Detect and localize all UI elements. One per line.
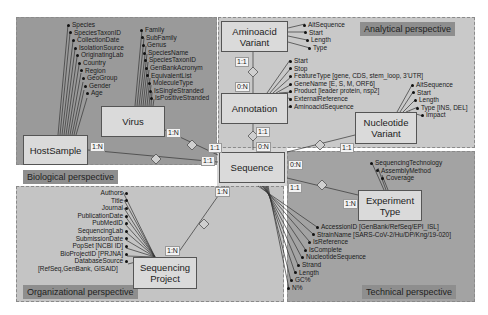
card-exp-seq: 1:1	[288, 183, 302, 193]
attr-accession-id: AccessionID [GenBank/RefSeq/EPI_ISL]	[316, 223, 451, 231]
entity-annotation[interactable]: Annotation	[221, 93, 288, 124]
entity-host-sample[interactable]: HostSample	[23, 135, 88, 165]
attr-collection-date: CollectionDate	[72, 36, 124, 44]
entity-nucleotide-variant[interactable]: Nucleotide Variant	[355, 112, 417, 144]
attr-genus: Genus	[142, 41, 209, 49]
attr-n-percent: N%	[287, 284, 451, 292]
attr-type: Type [INS, DEL]	[416, 104, 468, 112]
attr-sequencing-lab: SequencingLab	[60, 227, 128, 235]
attr-originating-lab: OriginatingLab	[76, 51, 124, 59]
attr-pubmed-id: PubMedID	[60, 219, 128, 227]
attr-length: Length	[414, 96, 468, 104]
experiment-type-attributes: SequencingTechnology AssemblyMethod Cove…	[370, 159, 442, 182]
card-exp-side: 1:N	[343, 199, 358, 209]
card-nv-seq: 0:N	[288, 160, 303, 170]
attr-length: Length	[294, 269, 451, 277]
attr-impact: Impact	[421, 111, 468, 119]
nucleotide-variant-attributes: AltSequence Start Length Type [INS, DEL]…	[411, 81, 468, 119]
card-host-side: 1:N	[90, 142, 105, 152]
attr-journal: Journal	[60, 204, 128, 212]
attr-publication-date: PublicationDate	[60, 212, 128, 220]
attr-is-complete: IsComplete	[304, 246, 451, 254]
attr-type: Type	[308, 44, 345, 52]
entity-experiment-type[interactable]: Experiment Type	[358, 190, 422, 221]
attr-age: Age	[86, 89, 124, 97]
attr-start: Start	[304, 29, 345, 37]
entity-sequence[interactable]: Sequence	[219, 152, 285, 183]
attr-is-single-stranded: IsSingleStranded	[149, 87, 209, 95]
attr-aminoacid-sequence: AminoacidSequence	[289, 103, 423, 111]
attr-coverage: Coverage	[381, 174, 442, 182]
card-ann-side: 1:1	[256, 127, 270, 137]
card-ann-seq: 0:N	[256, 142, 271, 152]
attr-country: Country	[78, 59, 124, 67]
attr-species-taxon-id: SpeciesTaxonID	[144, 56, 209, 64]
attr-start: Start	[289, 57, 423, 65]
attr-nucleotide-sequence: NucleotideSequence	[301, 253, 451, 261]
card-aa-side: 1:1	[235, 57, 249, 67]
card-host-seq: 1:1	[201, 156, 215, 166]
attr-alt-sequence: AltSequence	[303, 21, 345, 29]
aminoacid-variant-attributes: AltSequence Start Length Type	[303, 21, 345, 51]
card-aa-ann: 0:N	[235, 82, 250, 92]
attr-alt-sequence: AltSequence	[411, 81, 468, 89]
attr-length: Length	[306, 36, 345, 44]
sequence-attributes: AccessionID [GenBank/RefSeq/EPI_ISL] Str…	[286, 223, 451, 291]
attr-geo-group: GeoGroup	[82, 74, 124, 82]
attr-title: Title	[60, 197, 128, 205]
attr-submission-date: SubmissionDate	[60, 235, 128, 243]
attr-species-name: SpeciesName	[143, 49, 209, 57]
attr-strain-name: StrainName [SARS-CoV-2/Hu/DP/Kng/19-020]	[312, 231, 451, 239]
attr-stop: Stop	[289, 65, 423, 73]
attr-bioproject-id: BioProjectID [PRJNA]	[60, 250, 128, 258]
attr-region: Region	[80, 67, 124, 75]
card-virus-side: 1:N	[166, 128, 181, 138]
attr-gender: Gender	[84, 82, 124, 90]
entity-aminoacid-variant[interactable]: Aminoacid Variant	[221, 21, 288, 52]
sequencing-project-attributes: Authors Title Journal PublicationDate Pu…	[60, 189, 128, 265]
attr-is-reference: IsReference	[308, 238, 451, 246]
attr-feature-type: FeatureType [gene, CDS, stem_loop, 3'UTR…	[289, 72, 423, 80]
attr-external-reference: ExternalReference	[289, 95, 423, 103]
card-proj-seq: 1:N	[215, 187, 230, 197]
attr-species-taxon-id: SpeciesTaxonID	[69, 29, 124, 37]
attr-gene-name: GeneName [E, S, M, ORF6]	[289, 80, 423, 88]
attr-equivalent-list: EquivalentList	[146, 72, 209, 80]
attr-start: Start	[412, 89, 468, 97]
attr-authors: Authors	[60, 189, 128, 197]
host-sample-attributes: Species SpeciesTaxonID CollectionDate Is…	[67, 21, 124, 97]
entity-sequencing-project[interactable]: Sequencing Project	[133, 257, 197, 289]
attr-species: Species	[67, 21, 124, 29]
attr-molecule-type: MoleculeType	[148, 79, 209, 87]
attr-subfamily: SubFamily	[141, 34, 209, 42]
card-virus-seq: 1:1	[208, 143, 222, 153]
attr-genbank-acronym: GenBankAcronym	[145, 64, 209, 72]
card-proj-side: 1:N	[165, 246, 180, 256]
virus-attributes: Family SubFamily Genus SpeciesName Speci…	[140, 26, 209, 102]
attr-popset: PopSet [NCBI ID]	[60, 242, 128, 250]
entity-virus[interactable]: Virus	[101, 106, 165, 137]
attr-family: Family	[140, 26, 209, 34]
card-nv-side: 1:1	[340, 143, 354, 153]
attr-sequencing-technology: SequencingTechnology	[370, 159, 442, 167]
attr-product: Product [leader protein, nsp2]	[289, 87, 423, 95]
attr-isolation-source: IsolationSource	[74, 44, 124, 52]
attr-strand: Strand	[297, 261, 451, 269]
attr-gc-percent: GC%	[290, 276, 451, 284]
attr-database-source: DatabaseSource	[60, 257, 128, 265]
attr-is-positive-stranded: IsPositiveStranded	[150, 94, 209, 102]
attr-database-source-values: [RefSeq,GenBank, GISAID]	[38, 265, 118, 273]
attr-assembly-method: AssemblyMethod	[376, 167, 442, 175]
annotation-attributes: Start Stop FeatureType [gene, CDS, stem_…	[289, 57, 423, 110]
